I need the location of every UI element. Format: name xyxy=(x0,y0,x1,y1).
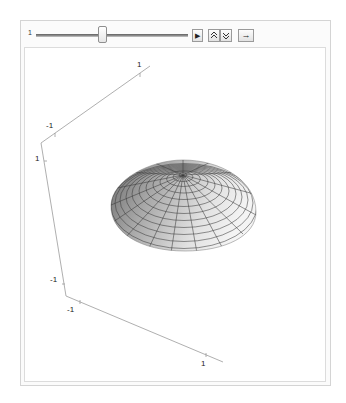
top-axis-line xyxy=(41,66,150,143)
bottom-axis-label-min: -1 xyxy=(67,305,75,314)
3d-plot[interactable]: 1 -1 1 -1 -1 1 xyxy=(0,0,346,403)
vertical-axis-line xyxy=(41,143,66,296)
dome-surface xyxy=(111,158,257,253)
vertical-axis-label-max: 1 xyxy=(35,154,40,163)
top-axis-label-max: 1 xyxy=(137,60,142,69)
bottom-axis-label-max: 1 xyxy=(201,359,206,368)
top-axis-label-min: -1 xyxy=(46,121,54,130)
vertical-axis-label-min: -1 xyxy=(50,275,58,284)
bottom-axis-line xyxy=(66,296,223,362)
